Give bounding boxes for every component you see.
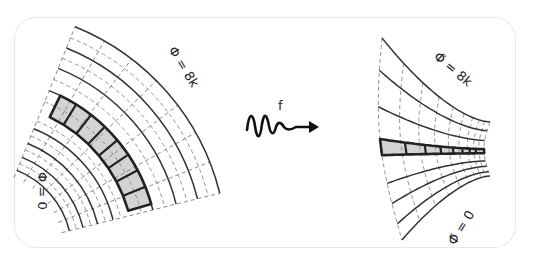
left-inner-label: Φ = 0	[35, 172, 50, 210]
transform-label: f	[278, 98, 283, 113]
diagram-canvas: Φ = 8k Φ = 0 f Φ̃ = 8k Φ̃ = 0	[0, 0, 533, 258]
squiggle-arrow-icon	[247, 116, 319, 136]
right-warped-grid	[378, 38, 490, 240]
right-outer-label: Φ̃ = 8k	[431, 49, 476, 90]
right-inner-label: Φ̃ = 0	[445, 208, 478, 248]
left-outer-label: Φ = 8k	[165, 44, 202, 91]
